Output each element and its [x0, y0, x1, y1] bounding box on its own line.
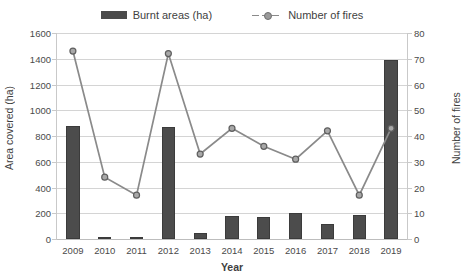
x-axis-title: Year — [0, 261, 464, 273]
y-axis-right-tick-label: 70 — [414, 53, 444, 64]
x-axis-baseline — [57, 239, 407, 240]
y-axis-left-tick-label: 1000 — [11, 105, 51, 116]
x-axis-tick-label-2012: 2012 — [158, 245, 179, 256]
y-axis-left-tick-label: 0 — [11, 234, 51, 245]
x-axis-tick-label-2016: 2016 — [285, 245, 306, 256]
y-axis-left-tick-label: 1400 — [11, 53, 51, 64]
y-axis-right-tickmark — [407, 162, 412, 163]
bar-swatch-icon — [101, 11, 127, 19]
y-axis-right-tick-label: 0 — [414, 234, 444, 245]
line-series-number-of-fires — [57, 33, 407, 239]
y-axis-right-tickmark — [407, 59, 412, 60]
x-axis-tick-label-2014: 2014 — [221, 245, 242, 256]
y-axis-right-tickmark — [407, 213, 412, 214]
legend-item-burnt-areas[interactable]: Burnt areas (ha) — [101, 9, 212, 21]
data-point-2019 — [388, 125, 394, 131]
x-axis-tick-label-2018: 2018 — [349, 245, 370, 256]
data-point-2017 — [324, 128, 330, 134]
y-axis-right-tick-label: 20 — [414, 182, 444, 193]
x-axis-tick-label-2017: 2017 — [317, 245, 338, 256]
y-axis-right-tickmark — [407, 85, 412, 86]
y-axis-right-tickmark — [407, 33, 412, 34]
line-path-number-of-fires — [73, 51, 391, 195]
y-axis-right-tickmark — [407, 136, 412, 137]
burnt-areas-fires-chart: Burnt areas (ha) Number of fires Area co… — [0, 0, 464, 279]
data-point-2014 — [229, 125, 235, 131]
y-axis-left-tick-label: 400 — [11, 182, 51, 193]
data-point-2009 — [70, 48, 76, 54]
data-point-2016 — [293, 156, 299, 162]
y-axis-right-tick-label: 60 — [414, 79, 444, 90]
legend-label-number-of-fires: Number of fires — [288, 9, 363, 21]
y-axis-left-tick-label: 200 — [11, 208, 51, 219]
x-axis-tick-label-2019: 2019 — [381, 245, 402, 256]
y-axis-left-tick-label: 1600 — [11, 28, 51, 39]
y-axis-right-tickmark — [407, 110, 412, 111]
y-axis-left-tick-label: 1200 — [11, 79, 51, 90]
x-axis-tick-label-2009: 2009 — [62, 245, 83, 256]
line-marker-swatch-icon — [252, 11, 282, 20]
x-axis-tick-label-2013: 2013 — [190, 245, 211, 256]
y-axis-right-tick-label: 80 — [414, 28, 444, 39]
x-axis-tick-label-2015: 2015 — [253, 245, 274, 256]
legend-label-burnt-areas: Burnt areas (ha) — [133, 9, 212, 21]
y-axis-right-tick-label: 40 — [414, 131, 444, 142]
data-point-2015 — [261, 143, 267, 149]
y-axis-right-tickmark — [407, 188, 412, 189]
data-point-2010 — [102, 174, 108, 180]
data-point-2013 — [197, 151, 203, 157]
y-axis-left-tick-label: 800 — [11, 131, 51, 142]
y-axis-right-tick-label: 50 — [414, 105, 444, 116]
y-axis-right-title: Number of fires — [449, 28, 463, 228]
y-axis-right-tick-label: 30 — [414, 156, 444, 167]
x-axis-tick-label-2011: 2011 — [126, 245, 146, 256]
data-point-2012 — [165, 51, 171, 57]
y-axis-right-tick-label: 10 — [414, 208, 444, 219]
x-axis-tick-label-2010: 2010 — [94, 245, 115, 256]
chart-legend: Burnt areas (ha) Number of fires — [0, 9, 464, 21]
plot-area: 02004006008001000120014001600 0102030405… — [57, 33, 407, 239]
y-axis-right-tickmark — [407, 239, 412, 240]
data-point-2011 — [134, 192, 140, 198]
y-axis-left-tick-label: 600 — [11, 156, 51, 167]
data-point-2018 — [356, 192, 362, 198]
legend-item-number-of-fires[interactable]: Number of fires — [252, 9, 363, 21]
